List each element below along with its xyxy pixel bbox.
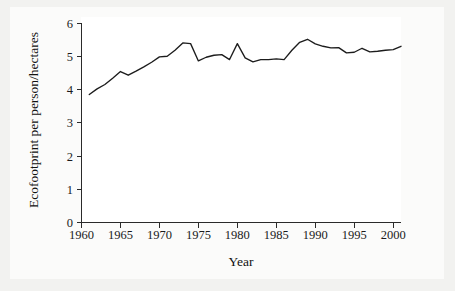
y-tick-label: 6 — [67, 17, 73, 31]
x-tick-label: 1975 — [186, 228, 211, 242]
y-axis-title: Ecofootprint per person/hectares — [26, 32, 41, 208]
x-tick-label: 1995 — [342, 228, 367, 242]
y-tick-label: 2 — [67, 150, 73, 164]
figure-container: 0123456 19601965197019751980198519901995… — [0, 0, 455, 291]
x-tick-label: 2000 — [381, 228, 406, 242]
plot-background — [81, 17, 401, 223]
plot-panel: 0123456 19601965197019751980198519901995… — [10, 7, 444, 279]
y-tick-label: 1 — [67, 183, 73, 197]
x-tick-label: 1985 — [264, 228, 289, 242]
y-axis-tick-marks — [77, 23, 82, 223]
line-chart: 0123456 19601965197019751980198519901995… — [10, 7, 444, 279]
y-tick-label: 3 — [67, 116, 73, 130]
x-tick-label: 1980 — [225, 228, 250, 242]
x-axis-title: Year — [229, 254, 254, 269]
y-tick-label: 5 — [67, 50, 73, 64]
y-tick-label: 4 — [67, 83, 74, 97]
x-tick-label: 1990 — [303, 228, 328, 242]
x-tick-label: 1970 — [147, 228, 172, 242]
x-axis-tick-marks — [82, 223, 394, 228]
x-tick-label: 1960 — [69, 228, 94, 242]
x-tick-label: 1965 — [108, 228, 133, 242]
y-axis-tick-labels: 0123456 — [67, 17, 74, 231]
x-axis-tick-labels: 196019651970197519801985199019952000 — [69, 228, 406, 242]
